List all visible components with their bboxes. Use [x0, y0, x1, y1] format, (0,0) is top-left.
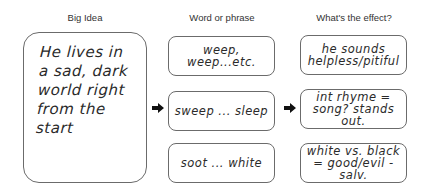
big-idea-box: He lives in a sad, dark world right from…	[23, 32, 147, 183]
header-word-or-phrase: Word or phrase	[160, 12, 284, 23]
phrase-box-1: weep, weep...etc.	[168, 36, 275, 76]
arrow-right-icon	[284, 103, 296, 113]
effect-box-2: int rhyme = song? stands out.	[300, 89, 407, 129]
phrase-box-2: sweep ... sleep	[168, 91, 275, 131]
phrase-box-3: soot ... white	[168, 143, 275, 183]
arrow-right-icon	[152, 103, 164, 113]
effect-box-3: white vs. black = good/evil - salv.	[300, 143, 407, 183]
big-idea-text: He lives in a sad, dark world right from…	[36, 43, 149, 138]
effect-box-1: he sounds helpless/pitiful	[300, 35, 407, 75]
header-big-idea: Big Idea	[23, 12, 147, 23]
header-effect: What's the effect?	[296, 12, 412, 23]
